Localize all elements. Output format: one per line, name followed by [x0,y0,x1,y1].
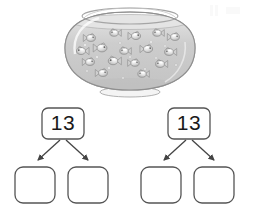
number-bond-right: 13 [126,105,253,210]
number-bond-left-svg: 13 [0,105,127,210]
bubble-icon [129,56,131,58]
bubble-icon [84,44,87,47]
number-bond-left: 13 [0,105,127,210]
bubble-icon [164,45,166,47]
bond-part-box-2[interactable] [68,167,108,203]
fishbowl-illustration [57,2,203,100]
bond-arrow-left [38,140,60,160]
fishbowl-svg [57,2,203,100]
bond-arrow-left [164,140,186,160]
bond-whole-value: 13 [51,111,75,134]
bond-arrow-right [192,140,214,160]
worksheet-canvas: 13 13 [0,0,253,210]
bubble-icon [86,70,88,72]
watermark [209,4,247,17]
bubble-icon [96,56,98,58]
bubble-icon [122,77,124,79]
bubble-icon [175,64,177,66]
bubble-icon [155,57,157,59]
bond-part-box-2[interactable] [194,167,234,203]
bond-part-box-1[interactable] [141,167,181,203]
number-bond-right-svg: 13 [126,105,253,210]
bond-arrow-right [66,140,88,160]
bond-whole-value: 13 [177,111,201,134]
bubble-icon [119,42,121,44]
bubble-icon [108,67,110,69]
bubble-icon [144,68,146,70]
bond-part-box-1[interactable] [15,167,55,203]
bubble-icon [150,41,152,43]
